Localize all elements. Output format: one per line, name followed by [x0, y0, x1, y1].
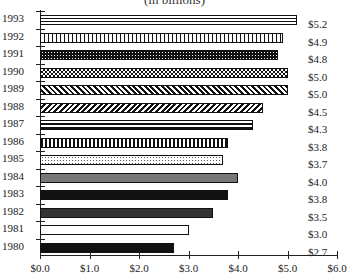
y-tick-label: 1987 — [2, 117, 36, 129]
x-tick — [90, 251, 91, 259]
x-tick — [288, 251, 289, 259]
y-tick-label: 1993 — [2, 12, 36, 24]
y-tick-label: 1991 — [2, 47, 36, 59]
y-tick — [36, 134, 45, 135]
bar-1991 — [40, 50, 278, 60]
y-tick — [36, 29, 45, 30]
value-label: $4.5 — [308, 106, 327, 118]
x-tick — [40, 251, 41, 259]
value-label: $3.8 — [308, 193, 327, 205]
bar-1985 — [40, 155, 223, 165]
y-tick — [36, 116, 45, 117]
y-tick-label: 1980 — [2, 240, 36, 252]
y-tick-label: 1985 — [2, 152, 36, 164]
value-label: $5.0 — [308, 71, 327, 83]
y-tick — [36, 99, 45, 100]
y-tick-label: 1984 — [2, 170, 36, 182]
bar-1990 — [40, 68, 288, 78]
value-label: $3.7 — [308, 158, 327, 170]
bar-1986 — [40, 138, 228, 148]
y-tick — [36, 46, 45, 47]
value-label: $4.8 — [308, 53, 327, 65]
x-tick-label: $1.0 — [80, 262, 99, 274]
bar-chart: 1993$5.21992$4.91991$4.81990$5.01989$5.0… — [0, 0, 349, 280]
x-tick — [337, 251, 338, 259]
y-tick — [36, 239, 45, 240]
y-tick-label: 1988 — [2, 100, 36, 112]
bar-1992 — [40, 33, 283, 43]
value-label: $4.9 — [308, 36, 327, 48]
y-tick — [36, 11, 45, 12]
x-tick — [189, 251, 190, 259]
value-label: $4.0 — [308, 176, 327, 188]
y-tick-label: 1992 — [2, 30, 36, 42]
y-tick — [36, 151, 45, 152]
value-label: $5.2 — [308, 18, 327, 30]
x-tick-label: $5.0 — [278, 262, 297, 274]
x-tick — [139, 251, 140, 259]
bar-1989 — [40, 85, 288, 95]
y-tick-label: 1986 — [2, 135, 36, 147]
x-tick — [238, 251, 239, 259]
y-tick-label: 1989 — [2, 82, 36, 94]
value-label: $3.0 — [308, 228, 327, 240]
bar-1984 — [40, 173, 238, 183]
value-label: $3.5 — [308, 211, 327, 223]
x-tick-label: $2.0 — [129, 262, 148, 274]
x-tick-label: $3.0 — [179, 262, 198, 274]
y-tick — [36, 186, 45, 187]
value-label: $3.8 — [308, 141, 327, 153]
value-label: $5.0 — [308, 88, 327, 100]
y-tick — [36, 81, 45, 82]
y-tick — [36, 169, 45, 170]
y-tick — [36, 64, 45, 65]
bar-1982 — [40, 208, 213, 218]
y-tick-label: 1981 — [2, 222, 36, 234]
x-tick-label: $4.0 — [228, 262, 247, 274]
y-tick — [36, 221, 45, 222]
value-label: $2.7 — [308, 246, 327, 258]
value-label: $4.3 — [308, 123, 327, 135]
bar-1981 — [40, 225, 189, 235]
bar-1993 — [40, 15, 297, 25]
y-tick — [36, 204, 45, 205]
y-tick-label: 1983 — [2, 187, 36, 199]
bar-1980 — [40, 243, 174, 253]
y-tick-label: 1990 — [2, 65, 36, 77]
bar-1983 — [40, 190, 228, 200]
y-tick-label: 1982 — [2, 205, 36, 217]
bar-1988 — [40, 103, 263, 113]
x-tick-label: $6.0 — [327, 262, 346, 274]
bar-1987 — [40, 120, 253, 130]
x-tick-label: $0.0 — [30, 262, 49, 274]
